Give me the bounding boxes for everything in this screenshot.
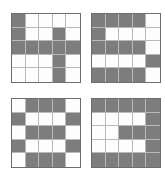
grid-panel-top-left [11,13,81,83]
grid-cell [26,113,40,127]
grid-cell [106,153,120,167]
grid-cell [12,14,26,28]
grid-cell [106,140,120,154]
grid-cell [119,113,133,127]
grid-cell [26,99,40,113]
grid-cell [106,28,120,42]
grid-panel-top-right [91,13,161,83]
grid-cell [12,140,26,154]
grid-cell [39,68,53,82]
grid-cell [133,126,147,140]
grid-cell [12,55,26,69]
grid-cell [133,153,147,167]
grid-cell [26,140,40,154]
grid-cell [26,14,40,28]
grid-cell [53,99,67,113]
grid-cell [53,68,67,82]
grid-cell [53,28,67,42]
grid-cell [66,113,80,127]
grid-cell [133,99,147,113]
grid-cell [133,140,147,154]
grid-cell [39,99,53,113]
grid-cell [119,99,133,113]
grid-cell [39,28,53,42]
grid-cell [12,28,26,42]
grid-cell [92,14,106,28]
grid-cells [92,14,160,82]
grid-cell [66,68,80,82]
grid-cell [12,153,26,167]
grid-cell [39,126,53,140]
grid-panel-bottom-left [11,98,81,168]
grid-cell [106,14,120,28]
grid-cell [39,14,53,28]
grid-cell [26,55,40,69]
pattern-figure [0,0,165,174]
grid-cells [12,14,80,82]
grid-cell [66,153,80,167]
grid-cell [106,55,120,69]
grid-cell [53,41,67,55]
grid-cell [53,55,67,69]
grid-cell [106,99,120,113]
grid-cell [12,41,26,55]
grid-cell [92,55,106,69]
grid-cell [39,113,53,127]
grid-cell [133,68,147,82]
grid-cell [133,28,147,42]
grid-cell [92,126,106,140]
grid-cell [26,153,40,167]
grid-cell [106,113,120,127]
grid-cell [133,41,147,55]
grid-cell [146,153,160,167]
grid-panel-bottom-right [91,98,161,168]
grid-cell [53,140,67,154]
grid-cell [26,68,40,82]
grid-cell [119,140,133,154]
grid-cell [119,68,133,82]
grid-cell [146,126,160,140]
grid-cell [119,41,133,55]
grid-cell [119,55,133,69]
grid-cell [146,113,160,127]
grid-cell [119,14,133,28]
grid-cell [92,99,106,113]
grid-cell [26,126,40,140]
grid-cell [92,41,106,55]
grid-cell [53,14,67,28]
grid-cell [133,113,147,127]
grid-cells [92,99,160,167]
grid-cell [66,55,80,69]
grid-cell [39,153,53,167]
grid-cell [146,55,160,69]
grid-cell [92,68,106,82]
grid-cell [66,28,80,42]
grid-cell [133,55,147,69]
grid-cell [133,14,147,28]
grid-cell [106,126,120,140]
grid-cell [106,68,120,82]
grid-cell [146,41,160,55]
grid-cell [66,99,80,113]
grid-cell [119,126,133,140]
grid-cell [66,140,80,154]
grid-cell [92,113,106,127]
grid-cell [12,113,26,127]
grid-cell [66,14,80,28]
grid-cell [39,140,53,154]
grid-cell [12,68,26,82]
grid-cell [92,153,106,167]
grid-cell [12,126,26,140]
grid-cell [66,41,80,55]
grid-cell [53,153,67,167]
grid-cell [66,126,80,140]
grid-cell [53,113,67,127]
grid-cell [119,153,133,167]
grid-cell [146,68,160,82]
grid-cells [12,99,80,167]
grid-cell [92,28,106,42]
grid-cell [106,41,120,55]
grid-cell [53,126,67,140]
grid-cell [119,28,133,42]
grid-cell [12,99,26,113]
